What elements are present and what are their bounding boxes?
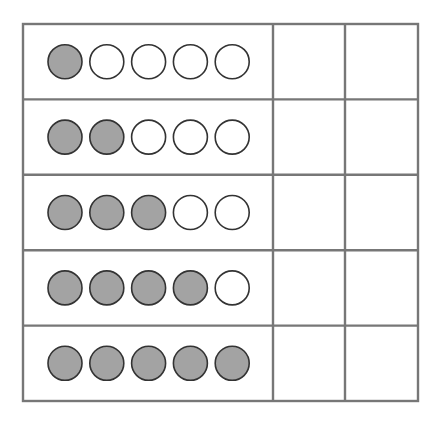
blank-answer-cell	[345, 24, 418, 99]
blank-answer-cell	[273, 24, 345, 99]
filled-counter-icon	[90, 196, 124, 230]
empty-counter-icon	[132, 45, 166, 79]
empty-counter-icon	[173, 45, 207, 79]
filled-counter-icon	[90, 271, 124, 305]
filled-counter-icon	[48, 45, 82, 79]
filled-counter-icon	[48, 120, 82, 154]
empty-counter-icon	[215, 271, 249, 305]
empty-counter-icon	[173, 196, 207, 230]
empty-counter-icon	[132, 120, 166, 154]
filled-counter-icon	[215, 346, 249, 380]
empty-counter-icon	[173, 120, 207, 154]
filled-counter-icon	[132, 346, 166, 380]
filled-counter-icon	[132, 271, 166, 305]
empty-counter-icon	[215, 196, 249, 230]
blank-answer-cell	[273, 175, 345, 250]
blank-answer-cell	[345, 175, 418, 250]
blank-answer-cell	[345, 250, 418, 325]
filled-counter-icon	[90, 346, 124, 380]
counting-table	[0, 0, 437, 428]
blank-answer-cell	[273, 326, 345, 401]
filled-counter-icon	[48, 346, 82, 380]
filled-counter-icon	[132, 196, 166, 230]
filled-counter-icon	[48, 196, 82, 230]
blank-answer-cell	[273, 250, 345, 325]
blank-answer-cell	[345, 326, 418, 401]
blank-answer-cell	[345, 99, 418, 174]
filled-counter-icon	[48, 271, 82, 305]
filled-counter-icon	[173, 271, 207, 305]
blank-answer-cell	[273, 99, 345, 174]
empty-counter-icon	[90, 45, 124, 79]
filled-counter-icon	[173, 346, 207, 380]
empty-counter-icon	[215, 120, 249, 154]
filled-counter-icon	[90, 120, 124, 154]
empty-counter-icon	[215, 45, 249, 79]
